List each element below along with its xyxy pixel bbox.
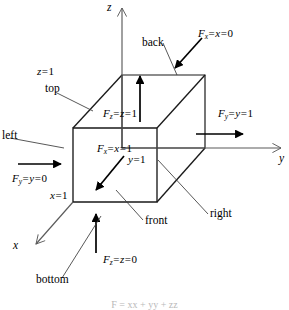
face-label-left: left: [2, 130, 17, 142]
figure-caption: F = xx + yy + zz: [0, 299, 289, 310]
force-label-Fy-zero: Fy=y=0: [12, 173, 47, 185]
cube-wireframe: [73, 75, 205, 202]
face-label-top: top: [45, 83, 60, 95]
coord-label-z-equals-one: z=1: [37, 66, 54, 77]
leader-back: [163, 43, 177, 75]
axis-label-y: y: [279, 153, 284, 165]
leader-right: [158, 160, 208, 214]
cube-edge-bottom-right: [157, 148, 205, 202]
coord-label-x-equals-one: x=1: [50, 190, 68, 201]
cube-front-face: [73, 128, 157, 202]
force-label-Fz-zero: Fz=z=0: [103, 254, 137, 266]
face-label-front: front: [145, 215, 167, 227]
leader-lines: [10, 43, 208, 278]
force-label-Fy-one: Fy=y=1: [218, 108, 253, 120]
force-arrow-Fx-one: [96, 156, 124, 190]
leader-top: [55, 92, 93, 111]
force-arrow-Fx-zero: [175, 38, 202, 68]
cube-boundary-conditions-figure: z y x top back left right front bottom z…: [0, 0, 289, 310]
axis-label-z: z: [107, 2, 111, 14]
cube-edge-bottom-left-hidden: [73, 148, 122, 202]
leader-front: [116, 190, 143, 220]
axis-label-x: x: [13, 240, 18, 252]
face-label-right: right: [210, 208, 232, 220]
face-label-bottom: bottom: [36, 274, 69, 286]
x-axis: [36, 202, 73, 244]
force-label-Fx-one: Fx=x=1: [97, 143, 132, 155]
coord-label-y-equals-one: y=1: [128, 154, 146, 165]
force-label-Fz-one: Fz=z=1: [103, 108, 137, 120]
leader-left: [10, 138, 64, 148]
cube-edge-top-right: [157, 75, 205, 128]
force-label-Fx-zero: Fx=x=0: [198, 28, 233, 40]
face-label-back: back: [142, 37, 164, 49]
